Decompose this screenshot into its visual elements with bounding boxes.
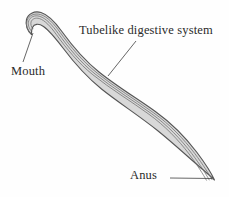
leader-line-digestive-system [108,41,136,76]
label-mouth: Mouth [11,64,45,79]
label-anus: Anus [130,168,157,183]
leader-line-anus [170,178,212,179]
label-tubelike-digestive-system: Tubelike digestive system [79,23,213,38]
leader-line-mouth [23,33,33,62]
roundworm-anatomy-figure: Tubelike digestive system Mouth Anus [0,0,229,197]
